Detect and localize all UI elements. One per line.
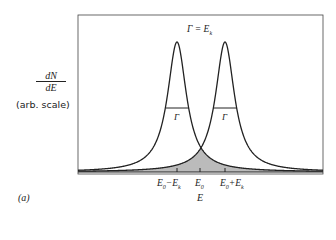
y-axis-label-fraction: dN dE bbox=[36, 70, 66, 94]
tick-label-e0: E0 bbox=[195, 178, 204, 190]
panel-label: (a) bbox=[18, 192, 30, 203]
gamma-label-right: Γ bbox=[222, 112, 227, 122]
y-axis-scale-note: (arb. scale) bbox=[16, 99, 70, 110]
gamma-equals-annotation: Γ = Ek bbox=[187, 24, 212, 36]
gamma-label-left: Γ bbox=[174, 112, 179, 122]
tick-label-e0-minus-ek: E0−Ek bbox=[157, 178, 181, 190]
tick-label-e0-plus-ek: E0+Ek bbox=[220, 178, 244, 190]
x-axis-label: E bbox=[197, 192, 203, 203]
